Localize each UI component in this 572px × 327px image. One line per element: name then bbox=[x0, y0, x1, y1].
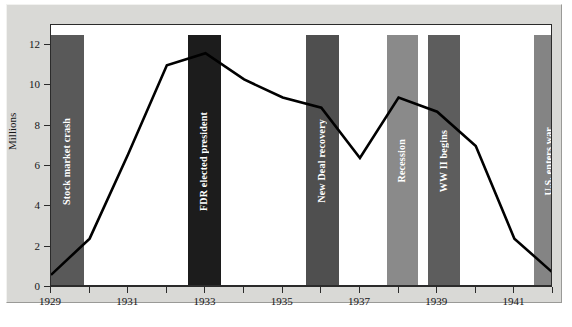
x-axis-tick-label: 1929 bbox=[39, 295, 61, 307]
event-marker-bar: FDR elected president bbox=[188, 35, 221, 285]
y-axis-spine bbox=[50, 24, 51, 286]
y-axis-tick-label: 2 bbox=[22, 240, 40, 252]
x-axis-tick bbox=[320, 287, 321, 293]
event-marker-label: U.S. enters war bbox=[544, 127, 551, 196]
x-axis-tick-label: 1933 bbox=[193, 295, 215, 307]
x-axis-tick bbox=[89, 287, 90, 293]
y-axis-tick-label: 4 bbox=[22, 199, 40, 211]
event-marker-label: WW II begins bbox=[439, 130, 449, 192]
y-axis-tick-label: 12 bbox=[22, 38, 40, 50]
x-axis-tick-label: 1935 bbox=[271, 295, 293, 307]
x-axis-tick bbox=[166, 287, 167, 293]
event-marker-bar: Stock market crash bbox=[51, 35, 84, 285]
x-axis-tick-label: 1941 bbox=[502, 295, 524, 307]
x-axis-tick bbox=[359, 287, 360, 293]
x-axis-tick-label: 1939 bbox=[425, 295, 447, 307]
event-marker-bar: New Deal recovery bbox=[306, 35, 339, 285]
x-axis-tick bbox=[552, 287, 553, 293]
x-axis-tick bbox=[204, 287, 205, 293]
event-marker-label: Recession bbox=[397, 139, 407, 182]
y-axis-tick-label: 6 bbox=[22, 159, 40, 171]
x-axis-tick bbox=[398, 287, 399, 293]
unemployment-line-series bbox=[51, 25, 551, 285]
x-axis-tick bbox=[475, 287, 476, 293]
y-axis-tick-label: 10 bbox=[22, 78, 40, 90]
plot-inner: Stock market crashFDR elected presidentN… bbox=[51, 25, 551, 285]
x-axis-tick bbox=[127, 287, 128, 293]
y-axis-title: Millions bbox=[6, 113, 18, 150]
event-marker-label: New Deal recovery bbox=[317, 119, 327, 203]
event-marker-bar: Recession bbox=[387, 35, 418, 285]
chart-figure: Millions 024681012 192919311933193519371… bbox=[0, 0, 572, 327]
x-axis-tick bbox=[436, 287, 437, 293]
x-axis-tick bbox=[282, 287, 283, 293]
y-axis-tick-label: 8 bbox=[22, 119, 40, 131]
event-marker-bar: WW II begins bbox=[428, 35, 461, 285]
event-marker-bar: U.S. enters war bbox=[534, 35, 551, 285]
data-line bbox=[51, 53, 551, 275]
x-axis-tick-label: 1937 bbox=[348, 295, 370, 307]
x-axis-tick bbox=[50, 287, 51, 293]
x-axis-tick bbox=[243, 287, 244, 293]
event-marker-label: FDR elected president bbox=[199, 112, 209, 211]
event-marker-label: Stock market crash bbox=[62, 118, 72, 205]
x-axis-tick bbox=[513, 287, 514, 293]
y-axis-tick-label: 0 bbox=[22, 280, 40, 292]
x-axis-tick-label: 1931 bbox=[116, 295, 138, 307]
plot-area: Stock market crashFDR elected presidentN… bbox=[50, 24, 552, 286]
x-axis-spine bbox=[50, 286, 552, 287]
